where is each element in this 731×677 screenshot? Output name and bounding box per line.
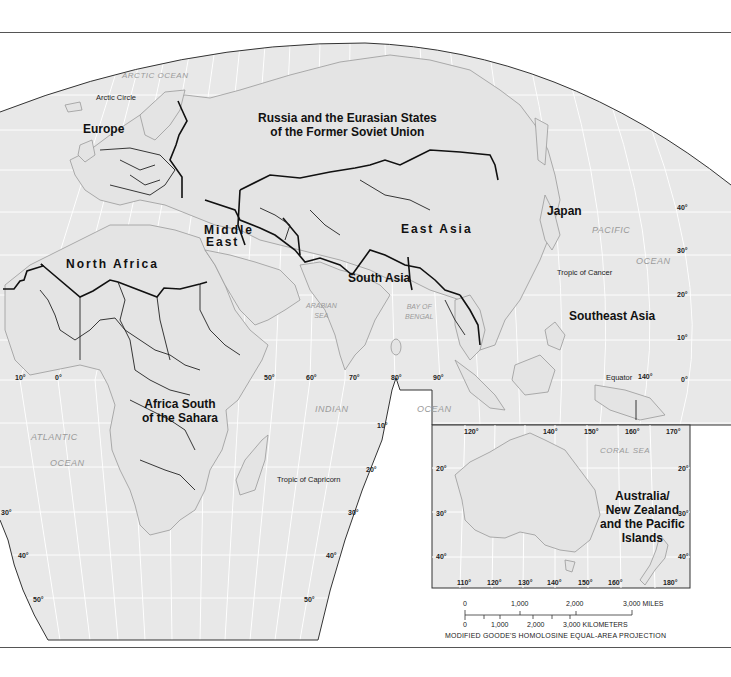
region-label-russia: Russia and the Eurasian States of the Fo… [258,111,437,139]
inset-lat-left-30: 30° [436,510,447,517]
lon-label-e60: 60° [306,374,317,381]
region-label-africa-south: Africa South of the Sahara [142,397,218,425]
scale-miles-1000: 1,000 [511,600,529,607]
label-bay-of-bengal-line2: BENGAL [405,312,433,322]
lat-label-n30: 30° [677,247,688,254]
lon-label-0: 0° [55,374,62,381]
label-bay-of-bengal: BAY OF BENGAL [405,302,433,322]
lon-label-e70: 70° [349,374,360,381]
lon-label-e80: 80° [391,374,402,381]
inset-lon-bottom-180: 180° [663,579,677,586]
inset-lat-right-40: 40° [678,553,689,560]
lat-label-s10: 10° [377,422,388,429]
label-atlantic: ATLANTIC [31,432,78,442]
label-arabian-sea-line2: SEA [306,311,337,321]
lat-label-s50-right: 50° [304,596,315,603]
region-label-europe: Europe [83,122,124,136]
scale-miles-2000: 2,000 [566,600,584,607]
lat-label-n10: 10° [677,334,688,341]
inset-lon-top-160: 160° [625,428,639,435]
inset-lat-right-20: 20° [678,465,689,472]
inset-lon-top-140: 140° [543,428,557,435]
region-label-africa-south-line2: of the Sahara [142,411,218,425]
label-arabian-sea-line1: ARABIAN [306,301,337,311]
scale-km-2000: 2,000 [527,621,545,628]
inset-lon-bottom-140: 140° [547,579,561,586]
lat-label-s30-left: 30° [1,509,12,516]
inset-lat-left-40: 40° [436,553,447,560]
scale-km-1000: 1,000 [491,621,509,628]
label-pacific-ocean: OCEAN [636,256,671,266]
label-tropic-of-capricorn: Tropic of Capricorn [277,475,341,484]
inset-lon-bottom-160: 160° [608,579,622,586]
lon-label-w10: 10° [15,374,26,381]
lat-label-s40-left: 40° [18,552,29,559]
lat-label-n40: 40° [677,204,688,211]
region-label-africa-south-line1: Africa South [142,397,218,411]
inset-lon-top-120: 120° [464,428,478,435]
label-coral-sea: CORAL SEA [600,446,650,455]
lat-label-s50-left: 50° [33,596,44,603]
label-arctic-ocean: ARCTIC OCEAN [122,71,188,80]
region-label-middle-east: Middle East [204,224,254,248]
scale-miles-3000: 3,000 MILES [623,600,663,607]
inset-lon-bottom-130: 130° [518,579,532,586]
inset-lon-top-150: 150° [584,428,598,435]
lat-label-s20: 20° [366,466,377,473]
lon-label-e50: 50° [264,374,275,381]
label-indian-ocean: OCEAN [417,404,452,414]
lat-label-s40-right: 40° [326,552,337,559]
region-label-japan: Japan [547,204,582,218]
label-atlantic-ocean: OCEAN [50,458,85,468]
region-label-australia-line4: Islands [600,531,685,545]
label-arctic-circle: Arctic Circle [96,93,136,102]
region-label-australia-line1: Australia/ [600,489,685,503]
label-bay-of-bengal-line1: BAY OF [405,302,433,312]
lat-label-eq: 0° [681,376,688,383]
region-label-australia: Australia/ New Zealand and the Pacific I… [600,489,685,545]
lon-label-e140: 140° [638,373,652,380]
label-pacific: PACIFIC [592,225,630,235]
label-indian: INDIAN [315,404,349,414]
inset-lon-bottom-110: 110° [457,579,471,586]
region-label-east-asia: East Asia [401,222,473,236]
label-arabian-sea: ARABIAN SEA [306,301,337,321]
inset-lon-top-170: 170° [666,428,680,435]
region-label-south-asia: South Asia [348,271,410,285]
inset-lon-bottom-120: 120° [487,579,501,586]
lat-label-n20: 20° [677,291,688,298]
scale-miles-0: 0 [463,600,467,607]
region-label-australia-line2: New Zealand [600,503,685,517]
scale-bar [465,610,632,620]
region-label-southeast-asia: Southeast Asia [569,309,655,323]
label-equator: Equator [606,373,632,382]
scale-km-0: 0 [463,621,467,628]
region-label-north-africa: North Africa [66,257,159,271]
projection-note: MODIFIED GOODE'S HOMOLOSINE EQUAL-AREA P… [445,632,666,639]
inset-lat-left-20: 20° [436,465,447,472]
region-label-russia-line2: of the Former Soviet Union [258,125,437,139]
region-label-middle-east-line2: East [204,236,254,248]
scale-km-3000: 3,000 KILOMETERS [563,621,628,628]
inset-lon-bottom-150: 150° [578,579,592,586]
lon-label-e90: 90° [433,374,444,381]
region-label-australia-line3: and the Pacific [600,517,685,531]
lat-label-s30-right: 30° [348,509,359,516]
label-tropic-of-cancer: Tropic of Cancer [557,268,612,277]
region-label-russia-line1: Russia and the Eurasian States [258,111,437,125]
inset-lat-right-30: 30° [678,510,689,517]
